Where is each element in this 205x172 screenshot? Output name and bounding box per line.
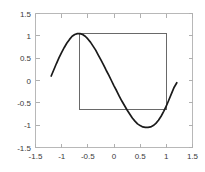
x-tick-label: 1: [164, 152, 169, 161]
x-tick-label: -1.5: [29, 152, 43, 161]
x-tick-labels: -1.5 -1 -0.5 0 0.5 1 1.5: [29, 152, 199, 161]
y-tick-label: 0: [27, 77, 32, 86]
y-tick-label: 1: [27, 32, 32, 41]
y-tick-label: -0.5: [17, 99, 31, 108]
x-tick-label: 1.5: [187, 152, 199, 161]
y-tick-label: 0.5: [20, 54, 32, 63]
figure-canvas: 1.5 1 0.5 0 -0.5 -1 -1.5 -1.5 -1 -0.5 0 …: [0, 0, 205, 172]
y-tick-label: -1: [24, 121, 32, 130]
data-curve: [51, 34, 177, 128]
y-tick-label: 1.5: [20, 10, 32, 19]
x-tick-label: -1: [58, 152, 66, 161]
plot-svg: 1.5 1 0.5 0 -0.5 -1 -1.5 -1.5 -1 -0.5 0 …: [0, 0, 205, 172]
x-tick-label: -0.5: [81, 152, 95, 161]
y-tick-labels: 1.5 1 0.5 0 -0.5 -1 -1.5: [17, 10, 31, 153]
x-tick-label: 0: [112, 152, 117, 161]
x-tick-label: 0.5: [135, 152, 147, 161]
